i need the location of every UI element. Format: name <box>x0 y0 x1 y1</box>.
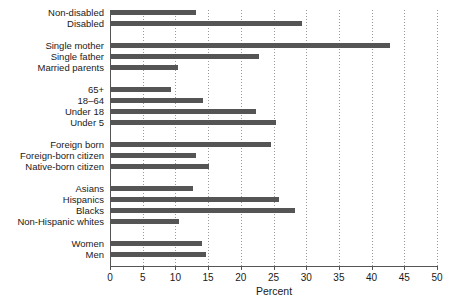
bar <box>110 87 171 92</box>
y-axis-label: Native-born citizen <box>0 162 104 172</box>
y-axis-label: Non-disabled <box>0 8 104 18</box>
bar-row <box>110 21 302 26</box>
bar <box>110 10 196 15</box>
bar-row <box>110 252 206 257</box>
x-tick-10 <box>175 266 176 270</box>
gridline-20 <box>241 10 242 266</box>
y-axis-label: Single father <box>0 52 104 62</box>
y-axis-label: Hispanics <box>0 195 104 205</box>
x-tick-label: 35 <box>324 272 354 284</box>
gridline-25 <box>274 10 275 266</box>
bar <box>110 43 390 48</box>
bar <box>110 219 179 224</box>
x-tick-15 <box>208 266 209 270</box>
bar-row <box>110 219 179 224</box>
bar <box>110 208 295 213</box>
x-tick-label: 10 <box>160 272 190 284</box>
x-tick-50 <box>437 266 438 270</box>
x-tick-20 <box>241 266 242 270</box>
gridline-5 <box>143 10 144 266</box>
bar <box>110 252 206 257</box>
bar <box>110 65 178 70</box>
bar <box>110 142 271 147</box>
gridline-45 <box>404 10 405 266</box>
y-axis-label: Single mother <box>0 41 104 51</box>
x-tick-label: 50 <box>422 272 452 284</box>
bar-row <box>110 109 256 114</box>
x-tick-45 <box>404 266 405 270</box>
gridline-10 <box>175 10 176 266</box>
gridline-30 <box>306 10 307 266</box>
x-tick-5 <box>143 266 144 270</box>
y-axis-label: Married parents <box>0 63 104 73</box>
bar <box>110 186 193 191</box>
bar-row <box>110 10 196 15</box>
y-axis-label: 65+ <box>0 85 104 95</box>
x-tick-label: 15 <box>193 272 223 284</box>
bar-row <box>110 142 271 147</box>
bar <box>110 153 196 158</box>
bar-row <box>110 54 259 59</box>
x-tick-label: 40 <box>357 272 387 284</box>
gridline-35 <box>339 10 340 266</box>
bar-row <box>110 186 193 191</box>
y-axis-label: Foreign-born citizen <box>0 151 104 161</box>
y-axis-category-labels: Non-disabledDisabledSingle motherSingle … <box>0 10 104 266</box>
gridline-40 <box>372 10 373 266</box>
bar-row <box>110 98 203 103</box>
y-axis-label: Non-Hispanic whites <box>0 217 104 227</box>
y-axis-label: Foreign born <box>0 140 104 150</box>
y-axis-label: Women <box>0 239 104 249</box>
bar-row <box>110 87 171 92</box>
bar-row <box>110 241 202 246</box>
x-tick-30 <box>306 266 307 270</box>
plot-area <box>110 10 437 266</box>
gridline-0 <box>110 10 111 266</box>
bar-row <box>110 120 276 125</box>
gridline-50 <box>437 10 438 266</box>
x-tick-40 <box>372 266 373 270</box>
bar-row <box>110 164 209 169</box>
y-axis-label: Blacks <box>0 206 104 216</box>
bar-row <box>110 197 279 202</box>
bar <box>110 120 276 125</box>
bar <box>110 98 203 103</box>
bar-row <box>110 65 178 70</box>
x-tick-label: 30 <box>291 272 321 284</box>
bar <box>110 21 302 26</box>
bar-chart: Non-disabledDisabledSingle motherSingle … <box>0 0 454 302</box>
x-tick-label: 0 <box>95 272 125 284</box>
x-tick-label: 5 <box>128 272 158 284</box>
bar-row <box>110 153 196 158</box>
x-tick-label: 20 <box>226 272 256 284</box>
bar <box>110 109 256 114</box>
x-tick-25 <box>274 266 275 270</box>
bar-row <box>110 43 390 48</box>
bar <box>110 197 279 202</box>
bar <box>110 54 259 59</box>
x-tick-label: 45 <box>389 272 419 284</box>
x-tick-0 <box>110 266 111 270</box>
y-axis-label: Men <box>0 250 104 260</box>
bar <box>110 241 202 246</box>
y-axis-label: 18–64 <box>0 96 104 106</box>
bar-row <box>110 208 295 213</box>
x-tick-label: 25 <box>259 272 289 284</box>
y-axis-label: Asians <box>0 184 104 194</box>
y-axis-label: Under 5 <box>0 118 104 128</box>
gridline-15 <box>208 10 209 266</box>
x-axis-title: Percent <box>110 285 438 298</box>
x-tick-35 <box>339 266 340 270</box>
y-axis-label: Under 18 <box>0 107 104 117</box>
bar <box>110 164 209 169</box>
y-axis-label: Disabled <box>0 19 104 29</box>
